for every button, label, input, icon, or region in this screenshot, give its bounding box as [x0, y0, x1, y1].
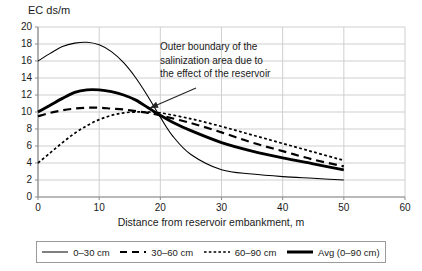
x-tick-10: 10	[84, 202, 114, 213]
y-tick-6: 6	[8, 140, 32, 151]
annotation-line-1: Outer boundary of the	[160, 40, 310, 54]
legend-label-0-30: 0–30 cm	[73, 247, 109, 258]
y-tick-20: 20	[8, 21, 32, 32]
x-tick-30: 30	[207, 202, 237, 213]
legend-label-60-90: 60–90 cm	[235, 247, 277, 258]
x-tick-50: 50	[329, 202, 359, 213]
series-line-3	[38, 90, 344, 170]
y-tick-18: 18	[8, 38, 32, 49]
legend-item-0-30: 0–30 cm	[42, 247, 109, 258]
y-tick-16: 16	[8, 55, 32, 66]
legend-label-avg: Avg (0–90 cm)	[318, 247, 380, 258]
legend-swatch-dotted	[204, 248, 230, 256]
chart-container: EC ds/m 02468101214161820 0102030405060 …	[0, 0, 422, 271]
y-tick-14: 14	[8, 72, 32, 83]
y-tick-12: 12	[8, 89, 32, 100]
annotation-line-3: the effect of the reservoir	[160, 67, 310, 81]
legend-swatch-solid-thin	[42, 248, 68, 256]
legend-swatch-solid-thick	[287, 248, 313, 256]
legend-label-30-60: 30–60 cm	[151, 247, 193, 258]
legend-item-60-90: 60–90 cm	[204, 247, 277, 258]
x-tick-0: 0	[23, 202, 53, 213]
x-tick-40: 40	[268, 202, 298, 213]
annotation-line-2: salinization area due to	[160, 54, 310, 68]
chart-annotation-text: Outer boundary of the salinization area …	[160, 40, 310, 81]
x-axis-title: Distance from reservoir embankment, m	[0, 216, 422, 228]
y-tick-0: 0	[8, 191, 32, 202]
x-tick-20: 20	[145, 202, 175, 213]
legend-swatch-dashed	[120, 248, 146, 256]
y-tick-2: 2	[8, 174, 32, 185]
y-tick-4: 4	[8, 157, 32, 168]
y-axis-title: EC ds/m	[28, 4, 70, 16]
y-tick-10: 10	[8, 106, 32, 117]
y-tick-8: 8	[8, 123, 32, 134]
legend-item-30-60: 30–60 cm	[120, 247, 193, 258]
legend-item-avg: Avg (0–90 cm)	[287, 247, 380, 258]
x-tick-60: 60	[390, 202, 420, 213]
series-line-1	[38, 108, 344, 167]
chart-legend: 0–30 cm 30–60 cm 60–90 cm Avg (0–90 cm)	[36, 241, 386, 263]
annotation-arrow	[150, 88, 196, 108]
